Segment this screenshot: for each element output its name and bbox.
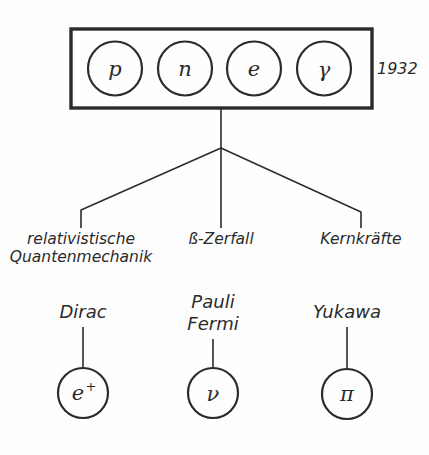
particle-symbol-positron: e [72, 381, 84, 405]
particle-symbol-neutrino: ν [207, 382, 220, 406]
diagram-canvas: p n e γ 1932 relativistische Quantenmech… [0, 0, 429, 455]
particle-symbol-neutron: n [178, 57, 192, 81]
physics-history-diagram: p n e γ 1932 relativistische Quantenmech… [0, 0, 429, 455]
particle-symbol-electron: e [248, 57, 260, 81]
particle-symbol-photon: γ [318, 58, 331, 82]
particle-superscript-positron: + [86, 379, 97, 394]
person-label-fermi: Fermi [187, 313, 238, 334]
branch-line-relativistic-qm [81, 148, 221, 228]
branch-line-nuclear-forces [221, 148, 361, 228]
branch-label-relativistic-qm-line2: Quantenmechanik [10, 248, 153, 266]
person-label-pauli: Pauli [191, 291, 234, 312]
person-label-dirac: Dirac [59, 301, 106, 322]
particle-symbol-proton: p [108, 57, 121, 81]
branch-label-nuclear-forces: Kernkräfte [320, 230, 401, 248]
year-label: 1932 [377, 59, 418, 78]
branch-label-beta-decay: ß-Zerfall [188, 230, 254, 248]
branch-label-relativistic-qm-line1: relativistische [27, 230, 135, 248]
particle-symbol-pion: π [339, 382, 355, 406]
person-label-yukawa: Yukawa [313, 301, 381, 322]
